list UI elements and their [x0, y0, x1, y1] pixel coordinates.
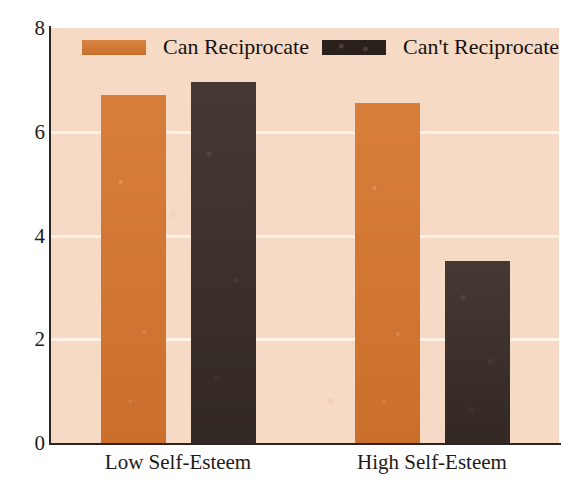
bar-chart-figure: 02468 Low Self-EsteemHigh Self-Esteem Ca…: [0, 0, 577, 482]
legend-item[interactable]: Can Reciprocate: [82, 36, 309, 58]
y-axis-line: [49, 26, 51, 445]
y-axis-tick-label: 2: [3, 329, 45, 350]
plot-area: [51, 28, 559, 443]
bar: [191, 82, 256, 443]
legend-swatch-icon: [322, 40, 386, 55]
bar: [355, 103, 420, 443]
legend-label: Can Reciprocate: [163, 36, 309, 58]
legend: Can ReciprocateCan't Reciprocate: [51, 28, 559, 66]
legend-swatch-icon: [82, 40, 146, 55]
x-axis-line: [49, 443, 561, 445]
x-axis-tick-label: High Self-Esteem: [305, 450, 559, 475]
y-axis-tick-labels: 02468: [0, 0, 45, 482]
y-axis-tick-label: 8: [3, 18, 45, 39]
bar: [101, 95, 166, 443]
y-axis-tick-label: 0: [3, 433, 45, 454]
y-axis-tick-label: 6: [3, 121, 45, 142]
bar: [445, 261, 510, 443]
x-axis-tick-label: Low Self-Esteem: [51, 450, 305, 475]
legend-item[interactable]: Can't Reciprocate: [322, 36, 559, 58]
legend-label: Can't Reciprocate: [403, 36, 559, 58]
y-axis-tick-label: 4: [3, 225, 45, 246]
